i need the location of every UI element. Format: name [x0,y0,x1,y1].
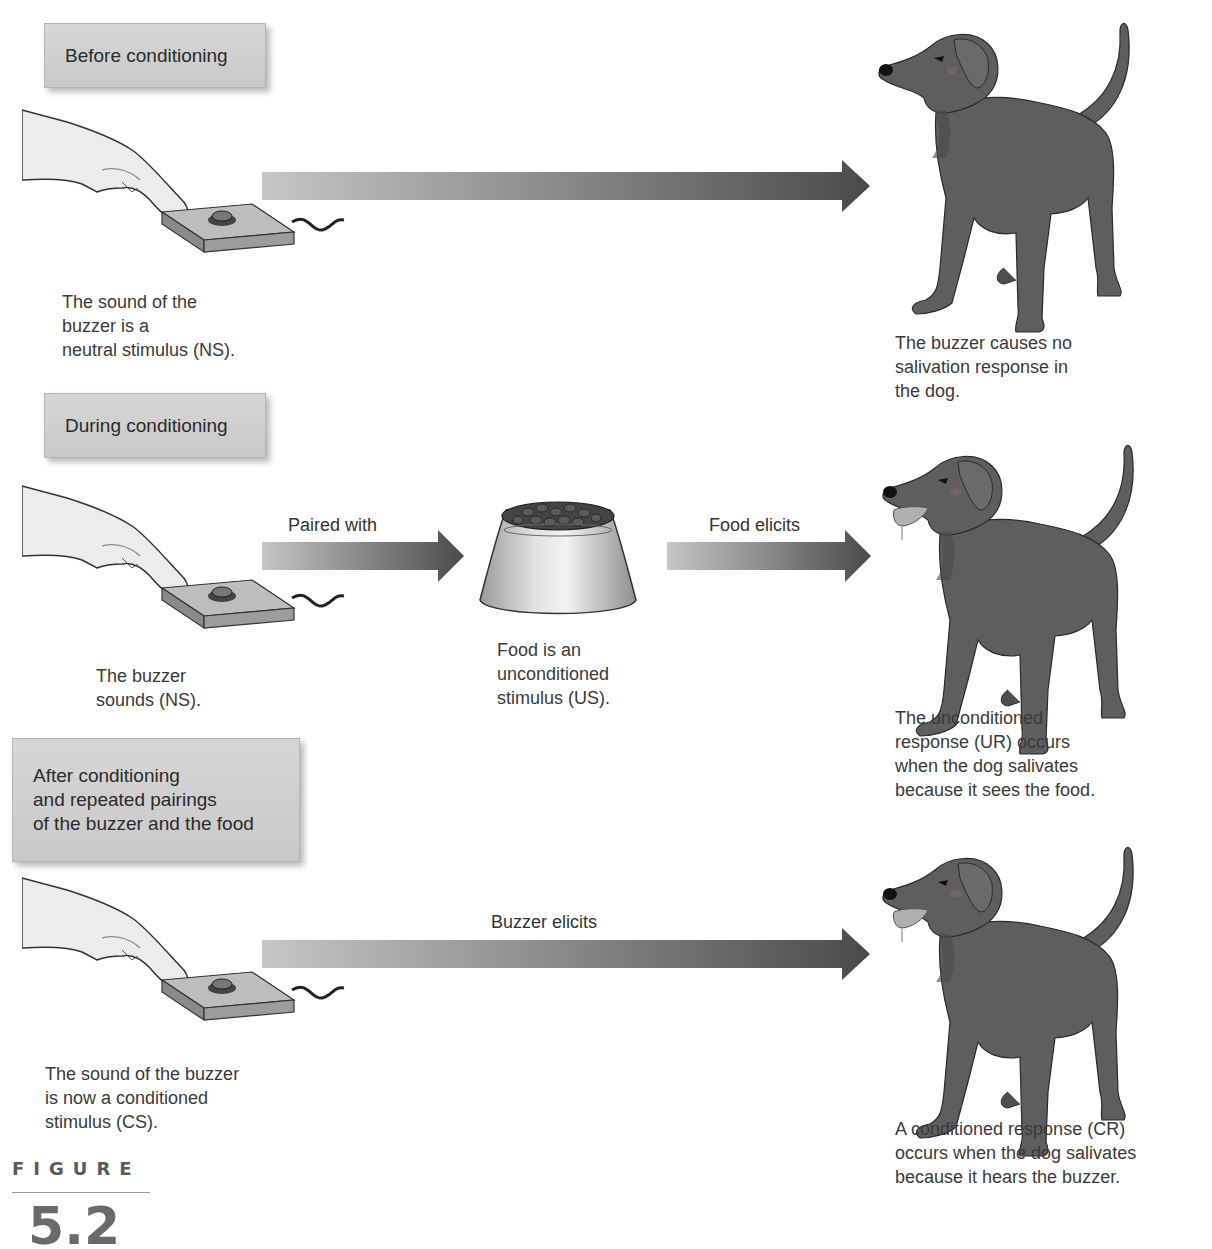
response-caption: The buzzer causes no salivation response… [895,331,1195,403]
stage-label-before: Before conditioning [44,23,266,88]
middle-caption: Food is an unconditioned stimulus (US). [497,638,677,710]
arrow-right-icon [262,530,464,582]
stage-label-text: Before conditioning [65,44,245,68]
response-caption: A conditioned response (CR) occurs when … [895,1117,1205,1189]
figure-word: FIGURE [12,1158,141,1179]
arrow-right-icon [667,530,871,582]
stimulus-caption: The sound of the buzzer is a neutral sti… [62,290,302,362]
salivating-dog-icon [880,842,1140,1162]
stage-label-line: After conditioning [33,764,279,788]
stimulus-caption: The sound of the buzzer is now a conditi… [45,1062,305,1134]
stage-label-line: and repeated pairings [33,788,279,812]
stage-label-during: During conditioning [44,393,266,458]
figure-divider [12,1192,150,1193]
figure-number: 5.2 [28,1196,120,1249]
dog-icon [876,18,1136,338]
stimulus-caption: The buzzer sounds (NS). [96,664,296,712]
stage-label-after: After conditioning and repeated pairings… [12,738,300,862]
arrow-right-icon [262,928,872,980]
response-caption: The unconditioned response (UR) occurs w… [895,706,1195,802]
food-bowl-icon [478,500,638,625]
arrow-right-icon [262,160,872,212]
stage-label-text: During conditioning [65,414,245,438]
stage-label-line: of the buzzer and the food [33,812,279,836]
